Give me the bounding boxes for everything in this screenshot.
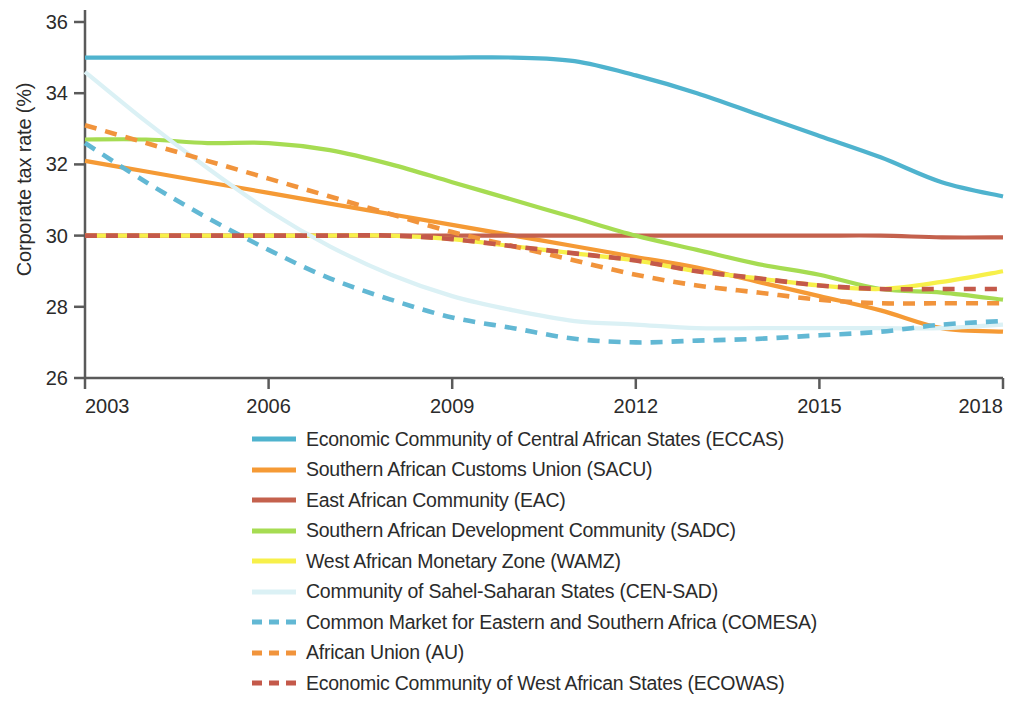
y-tick-label: 32 [46,153,68,175]
series-path-group [85,57,1003,342]
series-line-sacu [85,161,1003,332]
legend-swatch-wamz [252,551,296,571]
legend-label: West African Monetary Zone (WAMZ) [306,550,621,573]
x-axis-ticks [85,378,1003,389]
legend-item[interactable]: Southern African Customs Union (SACU) [252,455,1028,486]
legend-item[interactable]: Economic Community of West African State… [252,668,1028,699]
legend-item[interactable]: Economic Community of Central African St… [252,424,1028,455]
legend-item[interactable]: African Union (AU) [252,638,1028,669]
series-line-sadc [85,139,1003,299]
legend-swatch-sacu [252,460,296,480]
legend-swatch-comesa [252,612,296,632]
chart-figure: 262830323436 200320062009201220152018 Co… [0,0,1028,704]
legend-label: Southern African Customs Union (SACU) [306,458,652,481]
y-tick-label: 30 [46,225,68,247]
legend-swatch-cen-sad [252,582,296,602]
x-tick-label-group: 200320062009201220152018 [85,395,1003,417]
legend-item[interactable]: Southern African Development Community (… [252,516,1028,547]
chart-plot-area: 262830323436 200320062009201220152018 Co… [0,0,1028,424]
line-chart-svg: 262830323436 200320062009201220152018 [0,0,1028,424]
legend-swatch-ecowas [252,673,296,693]
legend-label: Economic Community of Central African St… [306,428,784,451]
series-line-ecowas [85,235,1003,289]
y-tick-label-group: 262830323436 [46,11,68,389]
y-tick-label: 36 [46,11,68,33]
legend-swatch-eccas [252,429,296,449]
legend-label: Southern African Development Community (… [306,519,736,542]
series-line-wamz [85,235,1003,289]
legend-label: African Union (AU) [306,641,464,664]
legend-swatch-sadc [252,521,296,541]
x-tick-label: 2018 [959,395,1004,417]
x-tick-label: 2006 [246,395,291,417]
legend-label: Common Market for Eastern and Southern A… [306,611,817,634]
legend-swatch-eac [252,490,296,510]
y-tick-label: 26 [46,367,68,389]
y-tick-label: 34 [46,82,68,104]
x-tick-label: 2015 [797,395,842,417]
legend-item[interactable]: West African Monetary Zone (WAMZ) [252,546,1028,577]
legend-swatch-au [252,643,296,663]
x-tick-label: 2009 [430,395,475,417]
y-tick-label: 28 [46,296,68,318]
chart-legend: Economic Community of Central African St… [0,424,1028,704]
legend-item[interactable]: Community of Sahel-Saharan States (CEN-S… [252,577,1028,608]
x-tick-label: 2012 [614,395,659,417]
legend-item[interactable]: Common Market for Eastern and Southern A… [252,607,1028,638]
legend-label: Economic Community of West African State… [306,672,784,695]
legend-label: East African Community (EAC) [306,489,566,512]
legend-item[interactable]: East African Community (EAC) [252,485,1028,516]
y-axis-ticks [74,22,85,378]
legend-label: Community of Sahel-Saharan States (CEN-S… [306,580,718,603]
y-axis-title: Corporate tax rate (%) [13,60,36,300]
x-tick-label: 2003 [85,395,130,417]
series-line-eccas [85,57,1003,196]
